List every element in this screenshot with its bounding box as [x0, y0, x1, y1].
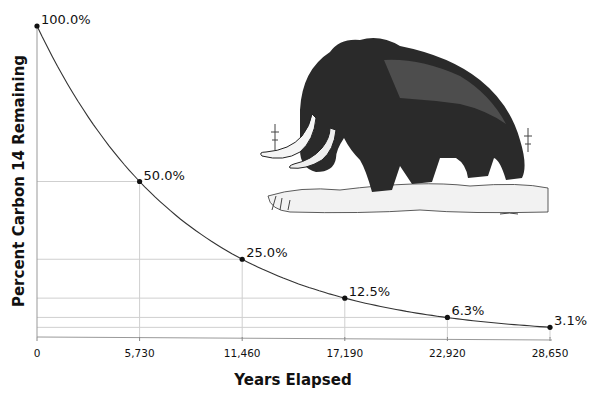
x-axis — [37, 337, 552, 340]
x-axis-title: Years Elapsed — [233, 371, 351, 389]
data-point — [137, 179, 142, 184]
x-tick-label: 22,920 — [429, 347, 466, 359]
x-tick-label: 5,730 — [125, 347, 155, 359]
carbon14-decay-chart: Years Elapsed Percent Carbon 14 Remainin… — [0, 0, 602, 394]
x-tick-label: 11,460 — [224, 347, 261, 359]
x-tick-label: 28,650 — [532, 347, 569, 359]
point-label: 3.1% — [554, 313, 587, 328]
mammoth-illustration — [261, 38, 548, 214]
y-axis-title: Percent Carbon 14 Remaining — [10, 55, 28, 307]
data-point — [34, 23, 39, 28]
point-label: 50.0% — [144, 168, 185, 183]
point-label: 25.0% — [246, 245, 287, 260]
x-tick-label: 17,190 — [326, 347, 363, 359]
point-label: 12.5% — [349, 284, 390, 299]
data-point — [240, 257, 245, 262]
x-tick-label: 0 — [34, 347, 41, 359]
point-label: 100.0% — [41, 12, 91, 27]
point-label: 6.3% — [451, 303, 484, 318]
data-point — [547, 325, 552, 330]
data-point — [445, 315, 450, 320]
data-point — [342, 296, 347, 301]
